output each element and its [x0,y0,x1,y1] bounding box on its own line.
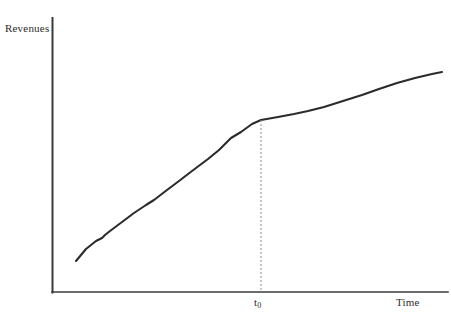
x-axis-label: Time [396,296,420,308]
t0-subscript-text: 0 [257,301,261,310]
revenues-time-chart [0,0,451,320]
chart-background [0,0,451,320]
x-tick-label-t0: t0 [254,296,261,308]
chart-page: Revenues Time t0 [0,0,451,320]
y-axis-label: Revenues [5,22,49,34]
